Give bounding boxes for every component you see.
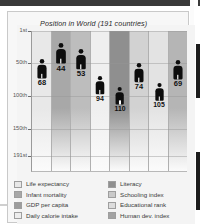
person-head-icon [98, 76, 102, 80]
y-tick-label-191: 191st [13, 153, 27, 159]
legend-item-right-0[interactable]: Literacy [108, 179, 196, 190]
gridline-150 [32, 129, 187, 130]
band-human-dev-index [168, 31, 188, 171]
legend-swatch-icon [14, 191, 22, 198]
marker-gdp-per-capita[interactable]: 53 [76, 49, 85, 78]
marker-literacy[interactable]: 110 [114, 87, 125, 112]
person-head-icon [137, 63, 142, 68]
legend-label: GDP per capita [26, 202, 68, 208]
legend-label: Daily calorie intake [26, 213, 78, 219]
person-head-icon [118, 87, 122, 91]
marker-educational-rank[interactable]: 105 [153, 83, 164, 108]
person-body-icon [96, 81, 105, 94]
legend-column-right: LiteracySchooling indexEducational rankH… [108, 179, 196, 221]
legend-item-left-2[interactable]: GDP per capita [14, 200, 102, 211]
plot-area: 684453941107410569 [31, 31, 187, 172]
legend-swatch-icon [108, 191, 116, 198]
person-body-icon [76, 55, 85, 69]
band-schooling-index [129, 31, 149, 171]
marker-value-label: 110 [114, 105, 125, 112]
legend-item-left-0[interactable]: Life expectancy [14, 179, 102, 190]
legend-label: Schooling index [120, 192, 164, 198]
person-body-icon [37, 64, 46, 78]
legend-label: Literacy [120, 181, 142, 187]
legend-item-left-1[interactable]: Infant mortality [14, 190, 102, 201]
legend: Life expectancyInfant mortalityGDP per c… [14, 179, 190, 221]
legend-label: Educational rank [120, 202, 166, 208]
marker-value-label: 74 [135, 83, 144, 90]
marker-life-expectancy[interactable]: 68 [37, 59, 46, 87]
y-tick-label-50: 50th [16, 60, 27, 66]
legend-swatch-icon [108, 202, 116, 209]
person-head-icon [39, 59, 44, 64]
legend-item-right-3[interactable]: Human dev. index [108, 211, 196, 222]
marker-human-dev-index[interactable]: 69 [174, 60, 183, 87]
legend-label: Life expectancy [26, 181, 69, 187]
legend-item-right-1[interactable]: Schooling index [108, 190, 196, 201]
page-root: Position in World (191 countries) 1st50t… [0, 0, 204, 224]
person-head-icon [157, 83, 161, 87]
legend-item-right-2[interactable]: Educational rank [108, 200, 196, 211]
marker-value-label: 69 [174, 80, 183, 88]
person-body-icon [116, 91, 124, 103]
marker-infant-mortality[interactable]: 44 [56, 43, 66, 72]
person-body-icon [56, 49, 66, 64]
marker-value-label: 94 [96, 95, 105, 102]
marker-value-label: 53 [76, 70, 85, 78]
person-body-icon [155, 88, 163, 100]
y-tick-label-1: 1st [20, 28, 27, 34]
marker-daily-calorie-intake[interactable]: 94 [96, 76, 105, 102]
legend-label: Infant mortality [26, 192, 67, 198]
person-body-icon [135, 68, 144, 82]
legend-swatch-icon [108, 212, 116, 219]
marker-value-label: 105 [153, 102, 164, 109]
person-head-icon [176, 60, 181, 65]
y-tick-label-150: 150th [13, 126, 27, 132]
band-life-expectancy [32, 31, 51, 171]
y-tick-label-100: 100th [13, 93, 27, 99]
person-head-icon [59, 43, 64, 48]
top-white-gap [0, 6, 204, 9]
chart-title: Position in World (191 countries) [40, 19, 147, 28]
person-body-icon [174, 65, 183, 79]
legend-swatch-icon [14, 202, 22, 209]
marker-value-label: 68 [37, 79, 46, 87]
legend-swatch-icon [108, 181, 116, 188]
right-edge-strip-c [200, 0, 204, 224]
legend-swatch-icon [14, 181, 22, 188]
marker-value-label: 44 [56, 64, 66, 72]
legend-swatch-icon [14, 212, 22, 219]
legend-label: Human dev. index [120, 213, 169, 219]
legend-column-left: Life expectancyInfant mortalityGDP per c… [14, 179, 102, 221]
marker-schooling-index[interactable]: 74 [135, 63, 144, 90]
gridline-1 [32, 31, 187, 32]
gridline-191 [32, 156, 187, 157]
person-head-icon [78, 49, 83, 54]
legend-item-left-3[interactable]: Daily calorie intake [14, 211, 102, 222]
